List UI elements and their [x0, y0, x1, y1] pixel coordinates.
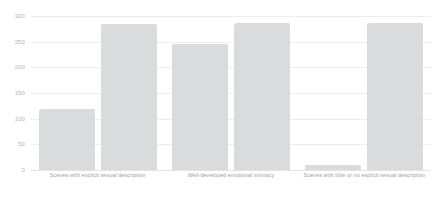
bar: [39, 109, 95, 170]
y-axis-tick-label: 100: [15, 116, 25, 122]
y-axis: 050100150200250300: [0, 10, 29, 170]
gridline-0: [31, 170, 431, 171]
y-axis-tick-label: 50: [18, 141, 25, 147]
y-axis-tick-label: 0: [22, 167, 25, 173]
x-axis-category-label: Scenes with little or no explicit sexual…: [303, 172, 425, 178]
gridline-300: [31, 16, 431, 17]
y-axis-tick-label: 200: [15, 64, 25, 70]
bar: [367, 23, 423, 170]
y-axis-tick-label: 150: [15, 90, 25, 96]
bar: [234, 23, 290, 170]
plot-area: [31, 10, 431, 170]
y-axis-tick-label: 250: [15, 39, 25, 45]
x-axis-category-label: Well-developed emotional intimacy: [188, 172, 275, 178]
y-axis-tick-label: 300: [15, 13, 25, 19]
bar: [172, 44, 228, 170]
bar-chart: 050100150200250300 Scenes with explicit …: [0, 0, 441, 198]
x-axis-category-label: Scenes with explicit sexual description: [50, 172, 146, 178]
bar: [305, 165, 361, 170]
bar: [101, 24, 157, 170]
x-axis: Scenes with explicit sexual descriptionW…: [31, 172, 431, 186]
